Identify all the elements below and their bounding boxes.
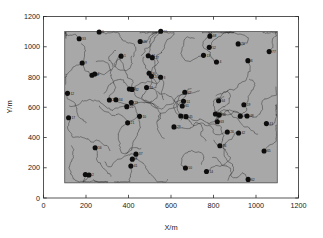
node-label: 26 xyxy=(230,130,234,134)
node-marker[interactable] xyxy=(66,115,71,120)
node-label: 6 xyxy=(251,59,253,63)
node-marker[interactable] xyxy=(144,85,149,90)
node-marker[interactable] xyxy=(93,145,98,150)
node-label: 33 xyxy=(82,37,86,41)
node-label: 16 xyxy=(98,146,102,150)
node-marker[interactable] xyxy=(158,29,163,34)
node-label: 50 xyxy=(188,166,192,170)
node-label: 77 xyxy=(272,50,276,54)
node-marker[interactable] xyxy=(124,104,129,109)
node-marker[interactable] xyxy=(236,41,241,46)
node-marker[interactable] xyxy=(113,97,118,102)
node-marker[interactable] xyxy=(207,45,212,50)
x-axis-title: X/m xyxy=(164,223,177,232)
node-label: 76 xyxy=(241,42,245,46)
node-marker[interactable] xyxy=(264,121,269,126)
figure-container: 3364655687691442713527764302031871222323… xyxy=(0,0,323,238)
node-label: 32 xyxy=(135,88,139,92)
node-label: 14 xyxy=(209,170,213,174)
node-marker[interactable] xyxy=(149,74,154,79)
node-marker[interactable] xyxy=(217,143,222,148)
node-label: 23 xyxy=(134,101,138,105)
node-marker[interactable] xyxy=(138,39,143,44)
y-tick-label: 400 xyxy=(28,133,40,142)
x-tick-label: 0 xyxy=(42,201,46,210)
node-marker[interactable] xyxy=(184,114,189,119)
node-label: 9 xyxy=(85,61,87,65)
node-marker[interactable] xyxy=(267,49,272,54)
node-label: 62 xyxy=(251,178,255,182)
node-marker[interactable] xyxy=(201,53,206,58)
node-label: 3 xyxy=(163,76,165,80)
node-marker[interactable] xyxy=(217,113,222,118)
node-label: 20 xyxy=(154,75,158,79)
node-label: 52 xyxy=(212,46,216,50)
node-label: 55 xyxy=(164,30,168,34)
node-marker[interactable] xyxy=(77,36,82,41)
node-label: 8 xyxy=(135,157,137,161)
deployment-region-layer xyxy=(65,32,278,183)
node-marker[interactable] xyxy=(183,166,188,171)
node-marker[interactable] xyxy=(92,71,97,76)
node-marker[interactable] xyxy=(80,60,85,65)
node-marker[interactable] xyxy=(182,90,187,95)
node-label: 34 xyxy=(119,98,123,102)
y-axis-title: Y/m xyxy=(5,100,14,113)
node-marker[interactable] xyxy=(236,130,241,135)
node-marker[interactable] xyxy=(216,98,221,103)
y-tick-label: 1000 xyxy=(24,42,40,51)
node-marker[interactable] xyxy=(204,169,209,174)
node-marker[interactable] xyxy=(86,172,91,177)
node-label: 41 xyxy=(134,164,138,168)
node-marker[interactable] xyxy=(97,29,102,34)
node-marker[interactable] xyxy=(119,54,124,59)
node-label: 27 xyxy=(155,56,159,60)
node-label: 12 xyxy=(70,92,74,96)
node-label: 45 xyxy=(189,115,193,119)
node-label: 2 xyxy=(92,173,94,177)
node-marker[interactable] xyxy=(150,55,155,60)
node-label: 61 xyxy=(185,104,189,108)
node-marker[interactable] xyxy=(178,113,183,118)
node-marker[interactable] xyxy=(207,34,212,39)
node-marker[interactable] xyxy=(225,130,230,135)
y-tick-label: 200 xyxy=(28,163,40,172)
node-marker[interactable] xyxy=(241,102,246,107)
node-label: 31 xyxy=(149,86,153,90)
deployment-region xyxy=(65,32,278,183)
node-label: 21 xyxy=(131,121,135,125)
node-marker[interactable] xyxy=(245,113,250,118)
node-marker[interactable] xyxy=(158,75,163,80)
node-label: 43 xyxy=(269,122,273,126)
node-marker[interactable] xyxy=(262,148,267,153)
node-marker[interactable] xyxy=(181,99,186,104)
node-marker[interactable] xyxy=(214,59,219,64)
node-label: 7 xyxy=(98,72,100,76)
node-label: 10 xyxy=(142,115,146,119)
node-marker[interactable] xyxy=(215,119,220,124)
x-tick-label: 400 xyxy=(123,201,135,210)
node-label: 65 xyxy=(267,149,271,153)
node-marker[interactable] xyxy=(107,97,112,102)
node-label: 51 xyxy=(186,100,190,104)
node-label: 17 xyxy=(71,116,75,120)
node-marker[interactable] xyxy=(130,87,135,92)
node-marker[interactable] xyxy=(171,124,176,129)
node-marker[interactable] xyxy=(130,157,135,162)
node-marker[interactable] xyxy=(246,177,251,182)
x-tick-label: 1200 xyxy=(291,201,307,210)
node-marker[interactable] xyxy=(128,163,133,168)
node-label: 1 xyxy=(124,54,126,58)
node-marker[interactable] xyxy=(133,152,138,157)
node-marker[interactable] xyxy=(125,120,130,125)
node-label: 48 xyxy=(250,114,254,118)
node-marker[interactable] xyxy=(65,91,70,96)
node-marker[interactable] xyxy=(245,58,250,63)
scatter-plot: 3364655687691442713527764302031871222323… xyxy=(0,0,323,238)
node-marker[interactable] xyxy=(137,114,142,119)
node-label: 37 xyxy=(139,152,143,156)
node-marker[interactable] xyxy=(180,103,185,108)
node-label: 13 xyxy=(206,54,210,58)
node-marker[interactable] xyxy=(238,114,243,119)
node-label: 6 xyxy=(102,30,104,34)
